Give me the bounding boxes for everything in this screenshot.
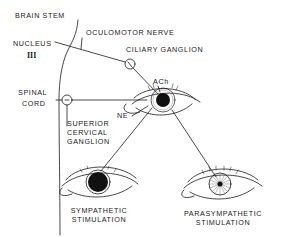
line-to-parasympathetic-eye [172, 110, 216, 177]
parasympathetic-label-line1: PARASYMPATHETIC [184, 210, 262, 217]
parasympathetic-eye [182, 166, 262, 199]
nucleus-label: NUCLEUS [13, 40, 52, 47]
brain-stem-label: BRAIN STEM [15, 12, 65, 19]
scg-label-line2: CERVICAL [67, 129, 108, 136]
sympathetic-dilated-pupil [88, 172, 108, 192]
scg-label-line3: GANGLION [67, 138, 110, 145]
ne-label: NE [117, 112, 128, 119]
sympathetic-eye [60, 166, 138, 197]
spinal-cord-label-line2: CORD [22, 100, 46, 107]
oculomotor-nerve-label: OCULOMOTOR NERVE [86, 29, 174, 36]
sympathetic-label-line2: STIMULATION [72, 216, 126, 223]
spinal-cord-label-line1: SPINAL [18, 89, 47, 96]
parasympathetic-label-line2: STIMULATION [196, 219, 250, 226]
ciliary-ganglion-label: CILIARY GANGLION [126, 46, 203, 53]
ne-pointer-line [132, 106, 148, 116]
sympathetic-label-line1: SYMPATHETIC [71, 207, 128, 214]
ciliary-ganglion-inner [128, 62, 132, 67]
oculomotor-nerve-tick [81, 38, 82, 49]
oculomotor-nerve-line [55, 42, 125, 62]
ach-label: ACh [153, 78, 169, 85]
center-pupil [156, 93, 170, 107]
nucleus-number-label: III [27, 52, 36, 60]
parasympathetic-constricted-pupil [218, 182, 223, 187]
scg-label-line1: SUPERIOR [67, 120, 109, 127]
center-eye [124, 84, 200, 115]
